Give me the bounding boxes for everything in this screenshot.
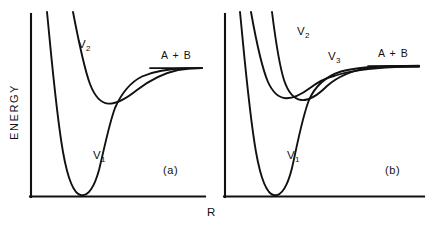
y-axis-label: ENERGY [8, 84, 20, 140]
panel-b: V2 V3 V1 A + B (b) [224, 12, 424, 197]
panel-b-label: (b) [385, 164, 400, 176]
panel-a-label-v2: V2 [78, 38, 91, 53]
potential-energy-figure: V2 V1 A + B (a) V2 V3 V1 [0, 0, 433, 226]
panel-a: V2 V1 A + B (a) [30, 12, 205, 197]
panel-b-label-v2: V2 [297, 25, 310, 40]
panel-a-label: (a) [163, 164, 178, 176]
figure-canvas: V2 V1 A + B (a) V2 V3 V1 [0, 0, 433, 226]
x-axis-label: R [207, 206, 216, 218]
panel-b-asymptote-label: A + B [378, 47, 409, 59]
panel-a-asymptote-label: A + B [161, 49, 192, 61]
panel-b-curve-v2-left [251, 12, 334, 98]
panel-a-curve-v1 [47, 12, 202, 195]
panel-b-label-v3: V3 [328, 50, 341, 65]
